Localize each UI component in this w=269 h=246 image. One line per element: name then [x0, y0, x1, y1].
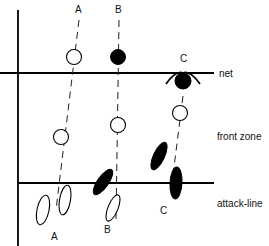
front-zone-label: front zone: [217, 131, 262, 142]
ball-b-net: [111, 50, 126, 65]
foot-c-left-icon: [148, 140, 171, 172]
net-label: net: [219, 68, 233, 79]
ball-a-front: [54, 130, 69, 145]
ball-c-front: [173, 106, 188, 121]
foot-a-left-icon: [34, 194, 52, 226]
foot-a-right-icon: [57, 184, 73, 215]
foot-b-left-icon: [90, 167, 116, 198]
player-a-bottom-label: A: [51, 231, 58, 242]
foot-b-right-icon: [103, 193, 123, 223]
path-a: [56, 20, 79, 210]
player-c-bottom-label: C: [160, 205, 167, 216]
foot-c-right-icon: [169, 167, 183, 200]
player-b-top-label: B: [115, 4, 122, 15]
player-b-bottom-label: B: [104, 224, 111, 235]
ball-a-net: [67, 50, 82, 65]
attack-line-label: attack-line: [217, 198, 263, 209]
player-c-top-label: C: [180, 53, 187, 64]
ball-c-net: [175, 73, 191, 89]
player-a-top-label: A: [75, 4, 82, 15]
ball-b-front: [111, 118, 126, 133]
blocking-diagram: A B C A B C net front zone attack-line: [0, 0, 269, 246]
